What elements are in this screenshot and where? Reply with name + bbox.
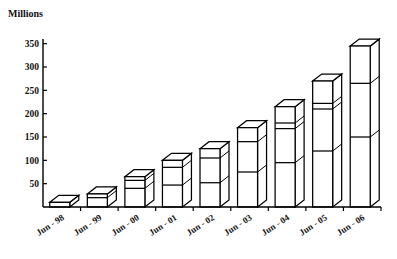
bars-group (50, 39, 379, 207)
y-tick-label: 150 (25, 132, 40, 142)
bar-side-face (370, 39, 379, 207)
bar-group[interactable] (200, 142, 229, 207)
bar-group[interactable] (238, 121, 267, 207)
bar-group[interactable] (125, 170, 154, 207)
bar-front-face (313, 81, 333, 207)
x-tick-label: Jun - 99 (72, 212, 104, 238)
y-tick-label: 50 (30, 179, 40, 189)
x-tick-label: Jun - 02 (185, 212, 217, 238)
x-tick-label: Jun - 01 (147, 212, 179, 238)
axis-title-group: Millions (8, 8, 43, 19)
x-tick-label: Jun - 06 (335, 212, 367, 238)
x-tick-label: Jun - 05 (297, 212, 329, 238)
chart-container: Millions 50100150200250300350 Jun - 98Ju… (0, 0, 397, 259)
x-tick-label: Jun - 03 (222, 212, 254, 238)
bar-group[interactable] (350, 39, 379, 207)
bar-front-face (125, 177, 145, 207)
y-tick-label: 250 (25, 86, 40, 96)
bar-side-face (295, 100, 304, 207)
bar-group[interactable] (87, 187, 116, 207)
bar-chart: Millions 50100150200250300350 Jun - 98Ju… (0, 0, 397, 259)
bar-front-face (87, 194, 107, 207)
y-tick-label: 100 (25, 156, 40, 166)
x-tick-label: Jun - 04 (260, 212, 292, 238)
y-tick-label: 200 (25, 109, 40, 119)
y-axis-title: Millions (8, 8, 43, 19)
bar-group[interactable] (50, 195, 79, 207)
x-axis: Jun - 98Jun - 99Jun - 00Jun - 01Jun - 02… (34, 207, 381, 238)
bar-group[interactable] (275, 100, 304, 207)
x-tick-label: Jun - 00 (110, 212, 142, 238)
bar-side-face (333, 74, 342, 207)
y-tick-label: 300 (25, 62, 40, 72)
bar-front-face (238, 128, 258, 207)
bar-group[interactable] (313, 74, 342, 207)
bar-group[interactable] (162, 153, 191, 207)
bar-side-face (258, 121, 267, 207)
bar-front-face (350, 46, 370, 207)
bar-front-face (275, 107, 295, 207)
y-tick-label: 350 (25, 39, 40, 49)
x-tick-label: Jun - 98 (34, 212, 66, 238)
